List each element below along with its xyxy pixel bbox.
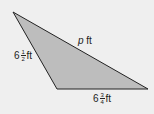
triangle (13, 12, 148, 89)
bottom-side-label: 6 3 4 ft (93, 92, 111, 105)
left-whole: 6 (14, 51, 20, 61)
bottom-den: 4 (100, 99, 103, 105)
hypotenuse-label: p ft (78, 36, 92, 46)
bottom-unit: ft (106, 94, 112, 104)
left-side-label: 6 1 2 ft (14, 49, 32, 62)
bottom-fraction: 3 4 (100, 92, 105, 105)
hyp-unit: ft (86, 36, 92, 46)
hyp-var: p (78, 36, 84, 46)
left-unit: ft (27, 51, 33, 61)
bottom-whole: 6 (93, 94, 99, 104)
left-den: 2 (21, 56, 24, 62)
left-fraction: 1 2 (21, 49, 26, 62)
